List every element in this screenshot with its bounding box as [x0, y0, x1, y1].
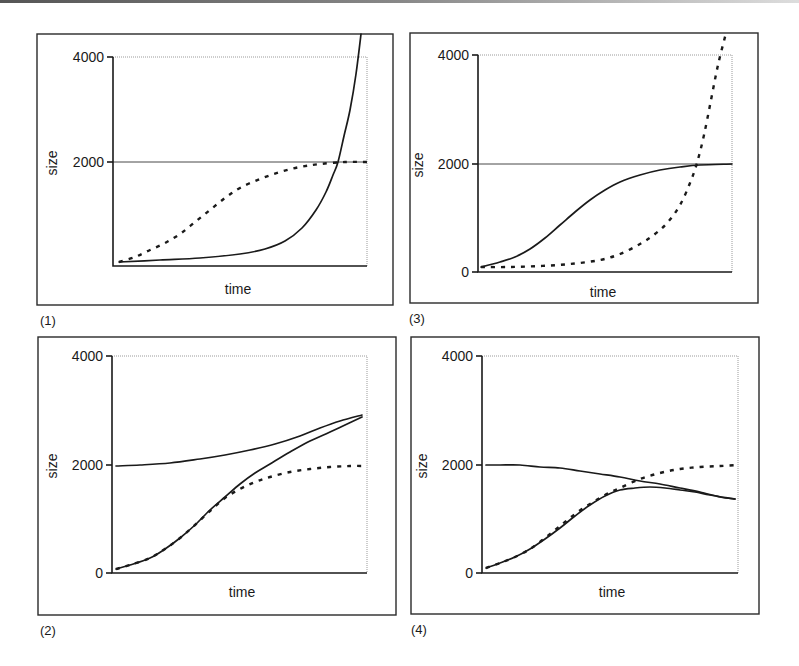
- y-axis-label: size: [44, 150, 60, 175]
- plot-area-border: [478, 55, 732, 272]
- y-tick-label: 0: [465, 565, 473, 581]
- dotted-curve: [116, 466, 367, 569]
- y-tick-label: 4000: [73, 49, 104, 65]
- x-axis-label: time: [599, 584, 626, 600]
- y-tick-label: 0: [95, 565, 103, 581]
- panel-label: (3): [409, 311, 425, 326]
- y-tick-label: 0: [461, 264, 469, 280]
- solid-curve: [116, 415, 362, 466]
- y-axis-label: size: [410, 152, 426, 177]
- y-tick-label: 4000: [442, 348, 473, 364]
- x-axis-label: time: [590, 284, 617, 300]
- solid-curve: [486, 487, 735, 568]
- x-axis-label: time: [229, 584, 256, 600]
- axes: [113, 57, 367, 266]
- dotted-curve: [481, 33, 726, 267]
- panel-4: 400020000timesize(4): [411, 337, 759, 637]
- y-tick-label: 4000: [438, 47, 469, 63]
- panel-1: 40002000timesize(1): [37, 34, 393, 328]
- panel-label: (1): [40, 313, 56, 328]
- solid-curve: [116, 417, 362, 569]
- y-tick-label: 2000: [72, 457, 103, 473]
- dotted-curve: [486, 465, 738, 568]
- y-tick-label: 2000: [438, 156, 469, 172]
- figure-canvas: 40002000timesize(1)400020000timesize(3)4…: [0, 0, 799, 666]
- panel-label: (2): [40, 623, 56, 638]
- plot-area-border: [113, 57, 367, 266]
- y-axis-label: size: [414, 453, 430, 478]
- x-axis-label: time: [225, 281, 252, 297]
- y-tick-label: 2000: [442, 457, 473, 473]
- panel-2: 400020000timesize(2): [38, 337, 396, 638]
- solid-curve: [119, 34, 361, 262]
- solid-curve: [481, 164, 732, 267]
- panel-3: 400020000timesize(3): [409, 33, 758, 326]
- y-axis-label: size: [44, 453, 60, 478]
- dotted-curve: [119, 162, 367, 262]
- axes: [478, 55, 732, 272]
- panel-label: (4): [411, 622, 427, 637]
- y-tick-label: 4000: [72, 348, 103, 364]
- y-tick-label: 2000: [73, 154, 104, 170]
